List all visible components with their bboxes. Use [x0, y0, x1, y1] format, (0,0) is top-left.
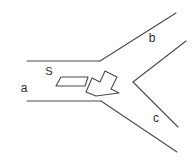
label-branch-c: c — [153, 111, 159, 125]
label-branch-a: a — [21, 81, 28, 95]
diagram-canvas: a b c S — [0, 0, 193, 162]
branch-c-lower-wall — [101, 101, 177, 152]
junction-diagram: a b c S — [0, 0, 193, 162]
label-branch-b: b — [149, 31, 156, 45]
branch-b-lower-wall — [133, 41, 186, 82]
direction-arrow — [86, 71, 119, 96]
label-vessel-s: S — [45, 65, 52, 77]
branch-b-upper-wall — [100, 13, 176, 61]
vessel-symbol — [56, 77, 88, 86]
